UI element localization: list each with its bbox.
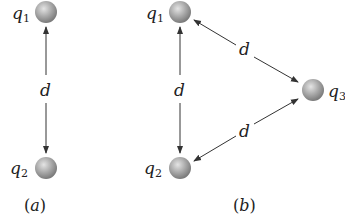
panel-a-caption: (a) — [24, 198, 46, 214]
panel-b — [169, 1, 324, 179]
distance-label-d-vertical: d — [174, 82, 185, 99]
charge-label-q1: q1 — [146, 5, 164, 24]
charge-q2-sphere — [169, 157, 191, 179]
charge-q2-sphere — [35, 157, 57, 179]
panel-b-caption: (b) — [233, 198, 256, 214]
distance-arrow-to-q2 — [194, 136, 236, 161]
charge-label-q1: q1 — [12, 5, 30, 24]
diagram-graphics — [0, 0, 345, 224]
coulomb-charges-figure: q1 q2 d (a) q1 q2 q3 d d d (b) — [0, 0, 345, 224]
charge-label-q2: q2 — [144, 160, 162, 179]
charge-q3-sphere — [302, 79, 324, 101]
distance-arrow-to-q3-bottom — [254, 99, 298, 124]
distance-arrow-to-q3-top — [254, 57, 298, 82]
distance-arrow-to-q1 — [194, 20, 236, 45]
charge-q1-sphere — [35, 1, 57, 23]
distance-label-d-upper: d — [239, 41, 250, 58]
charge-q1-sphere — [169, 1, 191, 23]
distance-label-d-lower: d — [239, 123, 250, 140]
distance-label-d: d — [40, 82, 51, 99]
charge-label-q2: q2 — [10, 160, 28, 179]
charge-label-q3: q3 — [328, 83, 345, 102]
